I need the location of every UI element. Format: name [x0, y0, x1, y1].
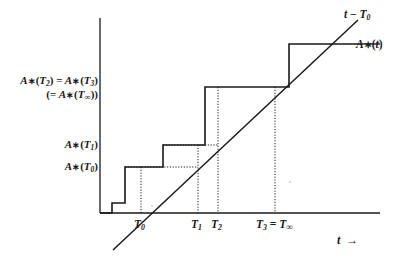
scan-speck: [289, 181, 290, 182]
curve-label-t-minus-T0: t − T0: [344, 8, 370, 22]
step-function-curve: [100, 44, 360, 213]
y-label-A-T0: A∗(T0): [38, 160, 98, 174]
curve-label-A-star-t: A∗(t): [356, 38, 383, 51]
y-label-A-T2-equals-A-T3: A∗(T2) = A∗(T3) (= A∗(T∞)): [14, 74, 98, 103]
y-label-A-T1: A∗(T1): [38, 138, 98, 152]
x-axis-name: t →: [337, 234, 358, 248]
y-label-A-T2-line2: (= A∗(T∞)): [14, 88, 98, 102]
diagonal-line: [113, 20, 358, 250]
figure-container: A∗(T2) = A∗(T3) (= A∗(T∞)) A∗(T1) A∗(T0)…: [0, 0, 398, 263]
x-tick-label-T1: T1: [191, 218, 202, 232]
x-tick-label-T0: T0: [134, 218, 145, 232]
x-tick-label-T2: T2: [211, 218, 222, 232]
x-tick-label-T3-equals-Tinf: T3 = T∞: [256, 218, 293, 233]
scan-speck: [151, 205, 152, 206]
y-label-A-T2-line1: A∗(T2) = A∗(T3): [20, 74, 98, 86]
